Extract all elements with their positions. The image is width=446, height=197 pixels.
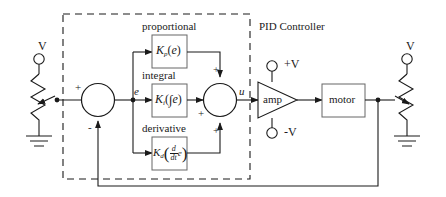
integral-caption: integral [142,70,176,81]
summing-junction-control [204,84,237,117]
proportional-caption: proportional [142,21,196,32]
input-ground-symbol [26,136,52,146]
amp-label: amp [263,94,282,105]
proportional-expression: Kp(e) [156,44,181,58]
derivative-caption: derivative [142,123,186,134]
input-pot-junction-dot [55,98,60,103]
feedback-pot-resistor [399,74,413,136]
derivative-fraction-denominator: dt [170,154,178,162]
integral-expression: Ki(∫e) [155,93,182,107]
input-pot-terminal-node [34,54,44,64]
derivative-fraction: d dt [170,145,178,163]
feedback-ground-symbol [394,136,420,146]
summing-junction-error [82,84,115,117]
integral-gain-symbol: K [155,92,163,106]
pid-controller-diagram: PID Controller V V + - e proportional in… [0,0,446,197]
proportional-close-paren: ) [177,43,181,57]
proportional-gain-symbol: K [156,43,164,57]
feedback-pot-terminal-node [402,54,412,64]
amp-positive-supply-terminal [267,61,277,71]
motor-label: motor [329,94,355,105]
control-signal-label: u [239,86,245,97]
amp-negative-supply-terminal [267,128,277,138]
diagram-canvas [0,0,446,197]
sum2-plus-top-sign: + [213,64,219,75]
feedback-pot-voltage-label: V [406,40,415,52]
integral-close-paren: ) [178,92,182,106]
derivative-close-paren: ) [182,144,188,163]
input-pot-wiper [38,96,55,104]
amp-positive-supply-label: +V [284,58,299,70]
sum1-plus-sign: + [75,82,81,93]
derivative-expression: Kd( d dt e) [153,145,187,163]
input-pot-voltage-label: V [38,40,47,52]
sum2-plus-bottom-sign: + [213,125,219,136]
feedback-pot-wiper [395,96,409,104]
sum2-plus-left-sign: + [198,108,204,119]
error-signal-label: e [134,86,139,97]
input-pot-resistor [31,74,45,136]
sum1-minus-sign: - [88,122,92,133]
pid-controller-label: PID Controller [259,21,325,32]
amp-negative-supply-label: -V [284,126,297,138]
